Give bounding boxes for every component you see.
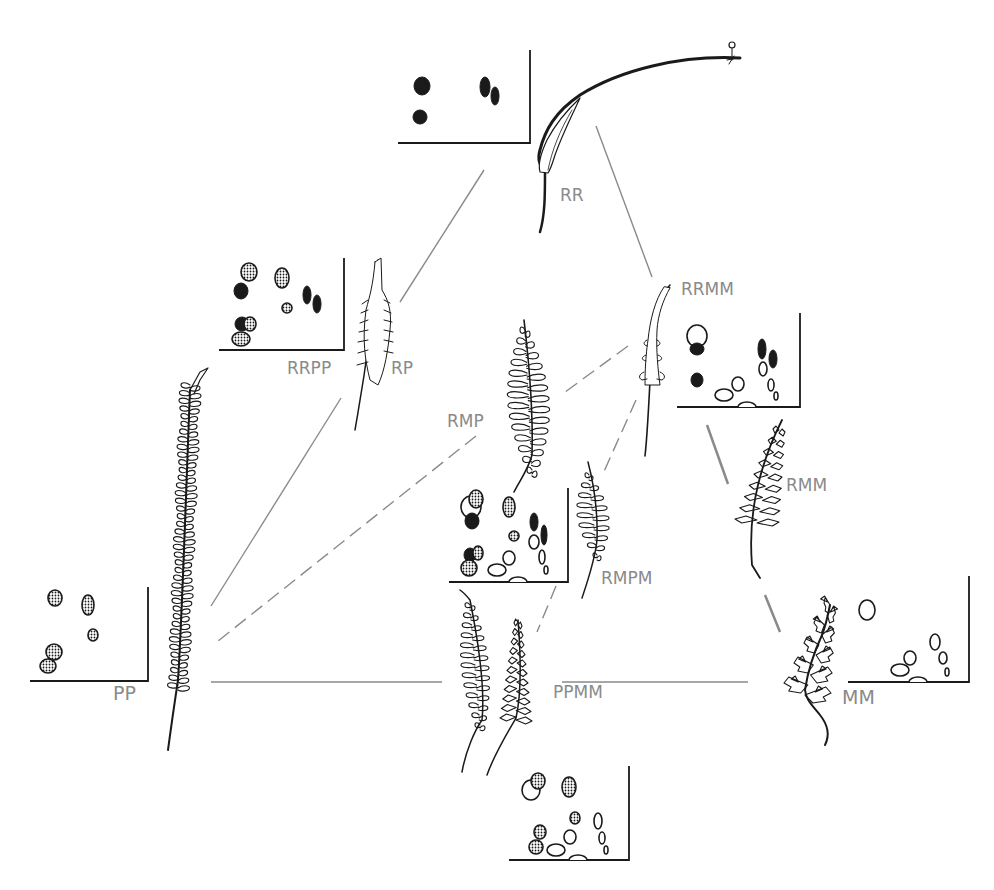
chart-axis	[848, 576, 969, 682]
chart-PP	[30, 587, 148, 681]
spot-dotted	[469, 490, 483, 508]
spot-open	[547, 844, 565, 856]
frond-RMP-icon	[507, 320, 549, 492]
spot-open-half	[738, 402, 756, 407]
spot-dotted	[509, 531, 519, 541]
node-label-rmm: RMM	[786, 477, 827, 494]
spot-solid	[313, 295, 321, 313]
connector-rmm-mm	[765, 595, 780, 632]
chart-axis	[398, 50, 530, 143]
node-label-rmp: RMP	[447, 413, 484, 430]
spot-open	[930, 634, 940, 650]
spot-open	[503, 551, 515, 565]
spot-open-half	[909, 677, 927, 682]
spot-dotted	[232, 332, 250, 346]
spot-open	[544, 566, 548, 574]
spot-dotted	[461, 560, 477, 576]
spot-open	[488, 564, 506, 576]
connector-rr-rrmm	[596, 126, 652, 277]
node-label-rr: RR	[560, 187, 584, 204]
node-label-rrmm: RRMM	[681, 281, 734, 298]
frond-RP-icon	[355, 258, 393, 430]
node-label-pp: PP	[113, 684, 136, 703]
spot-open	[732, 377, 744, 391]
spot-dotted	[473, 546, 483, 560]
chart-RRPP	[219, 258, 344, 350]
spot-open	[599, 832, 605, 844]
connector-rrmm-rmpm	[602, 400, 636, 476]
spot-solid	[414, 77, 430, 95]
spot-open-half	[569, 855, 587, 860]
spot-open	[768, 379, 774, 391]
spot-solid	[303, 286, 311, 304]
spot-open	[759, 362, 767, 376]
chart-RRMM	[677, 313, 800, 407]
spot-dotted	[244, 317, 256, 331]
connector-rrpp-pp	[211, 398, 341, 606]
frond-MM-icon	[784, 596, 838, 745]
spot-dotted	[48, 590, 62, 606]
spot-solid	[690, 343, 704, 355]
spot-dotted	[88, 629, 98, 641]
spot-open	[774, 392, 778, 400]
frond-PPMM-icon	[460, 590, 532, 775]
connector-rr-chart-rrpp	[400, 170, 484, 302]
node-label-ppmm: PPMM	[553, 684, 603, 701]
connector-rmpm-ppmm	[537, 586, 556, 632]
chart-RMPM	[449, 488, 568, 582]
spot-solid	[541, 525, 547, 545]
node-label-mm: MM	[842, 688, 875, 707]
spot-open	[904, 651, 916, 665]
spot-open	[891, 664, 909, 676]
spot-dotted	[282, 303, 292, 313]
spot-dotted	[82, 595, 94, 615]
frond-PP-icon	[168, 368, 208, 750]
spot-open	[594, 813, 602, 829]
spot-dotted	[529, 840, 543, 854]
connector-rrmm-rmp	[561, 346, 628, 395]
spot-open	[939, 652, 947, 664]
spot-dotted	[570, 812, 580, 824]
spot-open	[604, 846, 608, 854]
spot-open	[529, 535, 539, 549]
chart-RR	[398, 50, 530, 143]
spot-solid	[234, 283, 248, 299]
node-label-rrpp: RRPP	[287, 360, 331, 377]
spot-dotted	[531, 773, 545, 789]
spot-solid	[480, 77, 490, 97]
spot-solid	[530, 513, 538, 531]
spot-open	[539, 550, 545, 564]
chart-MM	[848, 576, 969, 682]
spot-solid	[758, 339, 766, 359]
node-label-rp: RP	[391, 360, 413, 377]
connector-rrmm-rmm	[707, 425, 728, 484]
spot-dotted	[503, 497, 515, 517]
frond-RRMM-icon	[640, 285, 670, 456]
connector-lines	[211, 126, 780, 682]
chart-PPMM	[509, 766, 629, 860]
spot-solid	[769, 350, 777, 368]
spot-open	[715, 389, 733, 401]
spot-open	[859, 600, 875, 620]
spot-open-half	[509, 577, 527, 582]
spot-dotted	[241, 263, 257, 281]
spot-solid	[491, 87, 499, 105]
node-label-rmpm: RMPM	[601, 570, 652, 587]
spot-dotted	[275, 268, 289, 288]
spot-solid	[413, 110, 427, 124]
spot-solid	[465, 513, 479, 529]
frond-RMM-icon	[735, 420, 785, 578]
frond-illustrations	[168, 42, 838, 775]
spot-dotted	[40, 659, 56, 673]
spot-open	[564, 830, 576, 844]
spot-dotted	[534, 825, 546, 839]
spot-dotted	[562, 777, 576, 797]
hybridization-diagram	[0, 0, 994, 890]
spot-open	[945, 668, 949, 676]
spot-solid	[691, 373, 703, 387]
spot-dotted	[46, 644, 62, 660]
